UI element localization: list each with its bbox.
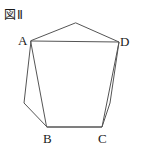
geometry-figure: [0, 0, 143, 155]
vertex-label-a: A: [18, 34, 27, 47]
vertex-label-b: B: [43, 132, 52, 145]
figure-caption: 図Ⅱ: [4, 8, 24, 22]
vertex-label-c: C: [98, 132, 107, 145]
figure-container: 図Ⅱ A D B C: [0, 0, 143, 155]
vertex-label-d: D: [120, 35, 129, 48]
